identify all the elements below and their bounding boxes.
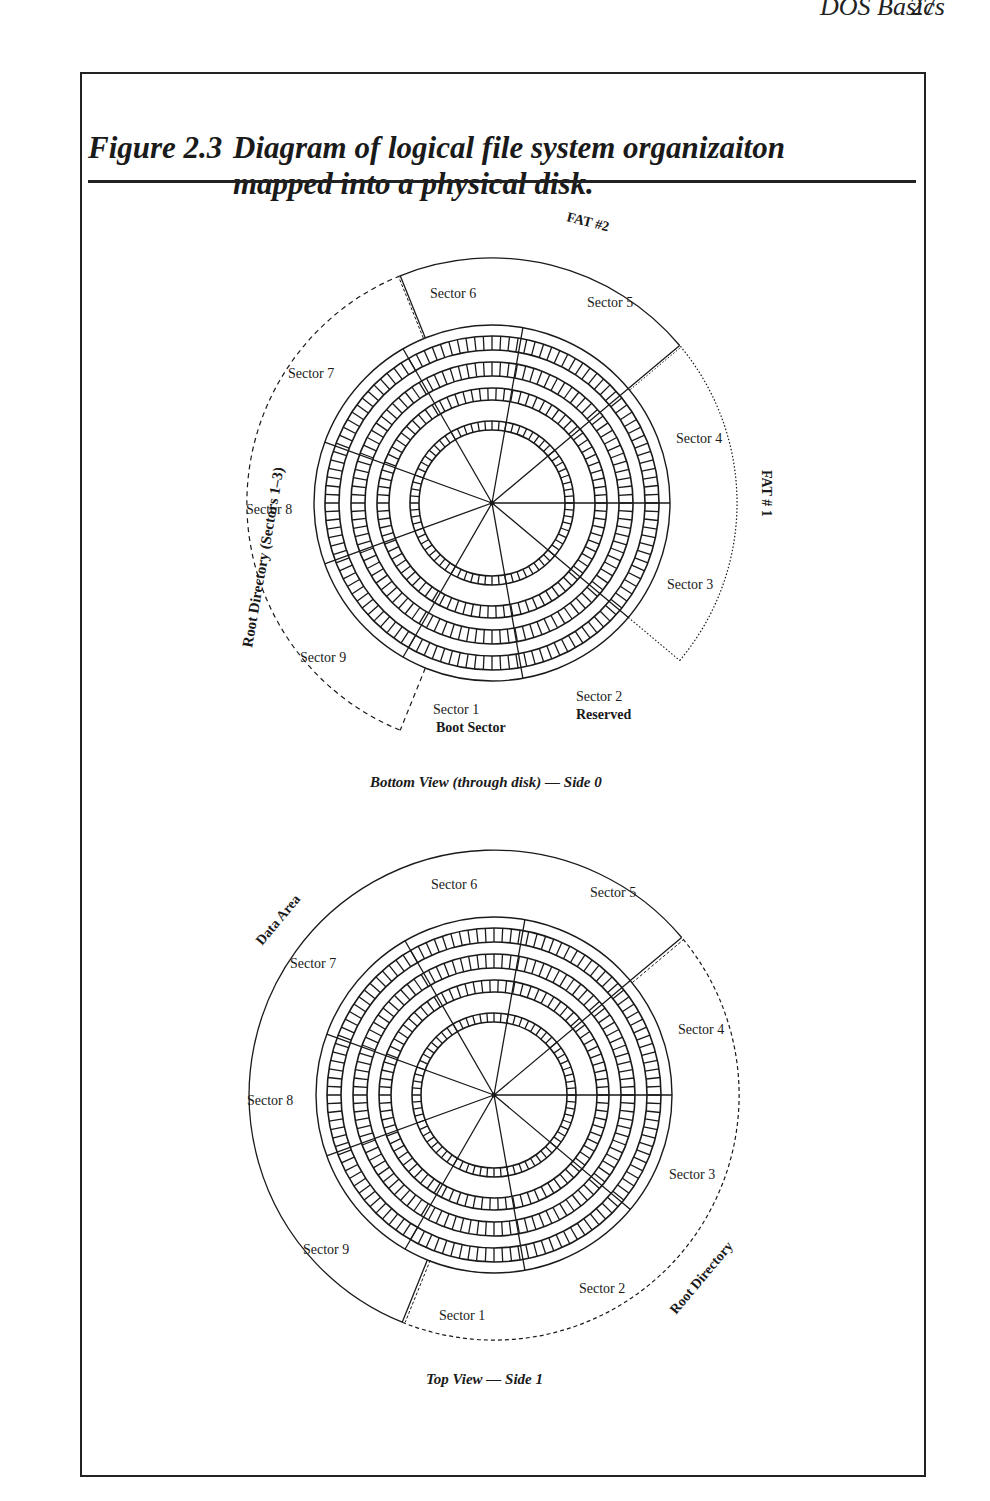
sector-6-label: Sector 6	[430, 286, 476, 301]
sector-3-label: Sector 3	[667, 577, 713, 592]
root-directory-label: Root Directory (Sectors 1–3)	[239, 466, 287, 649]
sector-5-label: Sector 5	[587, 295, 633, 310]
root-directory-label: Root Directory	[667, 1239, 736, 1317]
sector-8-label: Sector 8	[246, 502, 292, 517]
sector-2-label: Sector 2	[576, 689, 622, 704]
fat1-label: FAT # 1	[759, 470, 774, 517]
sector-3-label: Sector 3	[669, 1167, 715, 1182]
sector-4-label: Sector 4	[678, 1022, 724, 1037]
boot-sector-label: Boot Sector	[436, 720, 506, 735]
bottom-view-labels: FAT #2 FAT # 1 Root Directory (Sectors 1…	[239, 209, 774, 791]
sector-8-label: Sector 8	[247, 1093, 293, 1108]
bottom-view-caption: Bottom View (through disk) — Side 0	[369, 774, 602, 791]
reserved-label: Reserved	[576, 707, 631, 722]
sector-1-label: Sector 1	[439, 1308, 485, 1323]
sector-9-label: Sector 9	[303, 1242, 349, 1257]
sector-5-label: Sector 5	[590, 885, 636, 900]
sector-6-label: Sector 6	[431, 877, 477, 892]
sector-2-label: Sector 2	[579, 1281, 625, 1296]
sector-7-label: Sector 7	[290, 956, 336, 971]
sector-7-label: Sector 7	[288, 366, 334, 381]
fat2-label: FAT #2	[565, 209, 611, 234]
sector-9-label: Sector 9	[300, 650, 346, 665]
sector-4-label: Sector 4	[676, 431, 722, 446]
sector-1-label: Sector 1	[433, 702, 479, 717]
disk-diagrams: FAT #2 FAT # 1 Root Directory (Sectors 1…	[0, 0, 990, 1501]
top-view-disk	[249, 850, 739, 1340]
data-area-label: Data Area	[253, 892, 304, 948]
top-view-caption: Top View — Side 1	[426, 1371, 543, 1387]
